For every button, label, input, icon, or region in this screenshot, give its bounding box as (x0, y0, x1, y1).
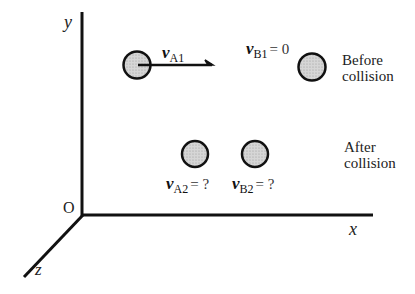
z-axis (24, 215, 83, 277)
velocity-symbol: v (246, 39, 254, 58)
velocity-subscript: B2 (240, 182, 254, 196)
after-collision-caption: After collision (344, 139, 396, 171)
origin-label: O (63, 200, 75, 216)
velocity-value: = ? (190, 176, 209, 192)
y-axis-label: y (64, 13, 72, 31)
x-axis-label: x (349, 220, 357, 238)
ball-a-after (182, 141, 208, 167)
velocity-value: = ? (256, 176, 275, 192)
velocity-symbol: v (162, 43, 170, 62)
velocity-subscript: B1 (254, 47, 268, 61)
ball-b-after (242, 141, 268, 167)
velocity-label-b1: vB1= 0 (246, 40, 289, 60)
caption-line: Before (342, 52, 394, 68)
velocity-value: = 0 (270, 41, 290, 57)
before-collision-caption: Before collision (342, 52, 394, 84)
velocity-label-a1: vA1 (162, 44, 184, 64)
caption-line: collision (342, 68, 394, 84)
caption-line: collision (344, 155, 396, 171)
velocity-subscript: A1 (170, 51, 185, 65)
velocity-symbol: v (166, 174, 174, 193)
velocity-label-b2: vB2= ? (232, 175, 274, 195)
caption-line: After (344, 139, 396, 155)
z-axis-label: z (35, 261, 42, 278)
velocity-symbol: v (232, 174, 240, 193)
velocity-subscript: A2 (174, 182, 189, 196)
ball-b-before (299, 54, 326, 81)
velocity-label-a2: vA2= ? (166, 175, 209, 195)
